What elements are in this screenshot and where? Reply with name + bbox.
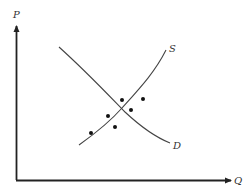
data-point bbox=[141, 97, 145, 101]
demand-label: D bbox=[172, 140, 181, 151]
supply-curve bbox=[79, 50, 166, 145]
supply-label: S bbox=[169, 43, 176, 54]
supply-demand-diagram: P Q D S bbox=[0, 0, 244, 190]
y-axis-label: P bbox=[12, 9, 20, 20]
x-axis-label: Q bbox=[234, 175, 242, 186]
data-point bbox=[106, 114, 110, 118]
data-point bbox=[129, 108, 133, 112]
data-point bbox=[89, 131, 93, 135]
data-point bbox=[113, 125, 117, 129]
data-point bbox=[120, 98, 124, 102]
